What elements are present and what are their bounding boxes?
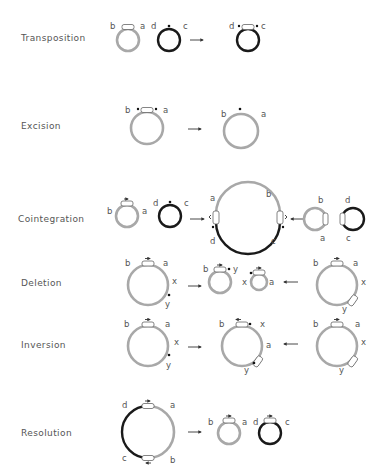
svg-text:b: b xyxy=(124,319,129,329)
row-label-cointegration: Cointegration xyxy=(18,214,84,224)
product-plasmid-1: b y xyxy=(203,264,238,293)
svg-text:d: d xyxy=(151,21,156,31)
inverted-plasmid: b x a y xyxy=(219,319,271,375)
target-plasmid: d c xyxy=(153,198,189,227)
substrate-plasmid-2: b a x y xyxy=(313,258,366,314)
svg-text:c: c xyxy=(184,198,189,208)
svg-text:c: c xyxy=(285,417,290,427)
substrate-plasmid: b a x y xyxy=(125,258,177,309)
product-plasmid-donor: b a xyxy=(208,416,247,444)
svg-text:b: b xyxy=(219,319,224,329)
target-plasmid-aligned: d c xyxy=(340,195,364,243)
donor-plasmid-aligned: b a xyxy=(304,195,328,243)
cointegrate-plasmid: a b d c xyxy=(209,182,287,254)
svg-text:y: y xyxy=(166,360,171,370)
svg-text:y: y xyxy=(165,299,170,309)
transposition-diagram: b a d c d c xyxy=(110,21,266,51)
svg-text:y: y xyxy=(339,365,344,375)
excision-diagram: b a b a xyxy=(125,105,266,148)
svg-text:b: b xyxy=(313,258,318,268)
svg-text:b: b xyxy=(125,105,130,115)
row-label-excision: Excision xyxy=(21,121,61,131)
svg-text:d: d xyxy=(210,236,215,246)
row-label-resolution: Resolution xyxy=(21,428,72,438)
svg-text:a: a xyxy=(163,258,168,268)
svg-text:a: a xyxy=(163,105,168,115)
svg-text:a: a xyxy=(170,400,175,410)
svg-text:b: b xyxy=(170,455,175,465)
row-label-transposition: Transposition xyxy=(20,33,86,43)
svg-text:y: y xyxy=(342,304,347,314)
deletion-diagram: b a x y b y x a b a xyxy=(125,258,366,314)
svg-text:a: a xyxy=(353,258,358,268)
svg-text:b: b xyxy=(313,319,318,329)
cointegrate-plasmid: d a c b xyxy=(122,400,175,465)
product-plasmid-target: d c xyxy=(253,416,290,444)
row-label-inversion: Inversion xyxy=(21,340,66,350)
substrate-plasmid: b a x y xyxy=(124,319,179,370)
target-plasmid: d c xyxy=(151,21,188,51)
svg-text:d: d xyxy=(345,195,350,205)
excised-plasmid: b a xyxy=(221,108,266,148)
svg-text:y: y xyxy=(233,264,238,274)
substrate-plasmid-2: b a x y xyxy=(313,319,366,375)
svg-text:x: x xyxy=(242,277,247,287)
svg-text:b: b xyxy=(110,21,115,31)
svg-text:b: b xyxy=(221,109,226,119)
row-label-deletion: Deletion xyxy=(21,278,62,288)
svg-text:d: d xyxy=(253,417,258,427)
svg-text:c: c xyxy=(261,21,266,31)
svg-text:a: a xyxy=(261,109,266,119)
svg-text:a: a xyxy=(165,319,170,329)
svg-text:a: a xyxy=(266,340,271,350)
svg-text:d: d xyxy=(153,198,158,208)
svg-text:c: c xyxy=(122,453,127,463)
svg-text:c: c xyxy=(346,233,351,243)
svg-text:a: a xyxy=(140,21,145,31)
svg-text:x: x xyxy=(361,337,366,347)
inversion-diagram: b a x y b x a y b a x y xyxy=(124,319,366,375)
product-plasmid: d c xyxy=(229,21,266,51)
dna-rearrangement-diagram: Transposition Excision Cointegration Del… xyxy=(0,0,386,475)
svg-text:b: b xyxy=(266,189,271,199)
svg-text:x: x xyxy=(172,276,177,286)
svg-text:a: a xyxy=(142,206,147,216)
svg-text:x: x xyxy=(260,319,265,329)
svg-text:a: a xyxy=(355,319,360,329)
svg-text:a: a xyxy=(242,417,247,427)
svg-text:c: c xyxy=(183,21,188,31)
cointegration-diagram: b a d c a b d c b a xyxy=(107,182,364,254)
svg-text:b: b xyxy=(318,195,323,205)
product-plasmid-2: x a xyxy=(242,268,274,290)
svg-text:y: y xyxy=(244,365,249,375)
resolution-diagram: d a c b b a d c xyxy=(122,400,290,465)
svg-text:a: a xyxy=(320,233,325,243)
svg-text:d: d xyxy=(229,21,234,31)
svg-text:x: x xyxy=(174,337,179,347)
svg-text:a: a xyxy=(269,277,274,287)
svg-text:b: b xyxy=(107,206,112,216)
svg-text:b: b xyxy=(125,258,130,268)
donor-plasmid: b a xyxy=(110,21,145,51)
svg-text:a: a xyxy=(210,193,215,203)
svg-text:b: b xyxy=(203,264,208,274)
svg-text:d: d xyxy=(122,400,127,410)
donor-plasmid: b a xyxy=(107,199,147,227)
svg-text:x: x xyxy=(361,277,366,287)
svg-text:c: c xyxy=(271,236,276,246)
svg-text:b: b xyxy=(208,417,213,427)
plasmid-with-insert: b a xyxy=(125,105,168,144)
